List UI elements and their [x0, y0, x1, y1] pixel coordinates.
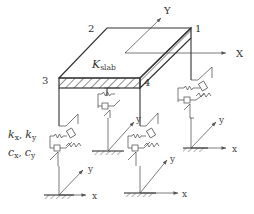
corner-label-4: 4: [144, 77, 150, 88]
isolator-1: [178, 67, 212, 148]
local-y-label: y: [87, 164, 94, 174]
spring-icon: [144, 143, 159, 147]
local-y-axis: [59, 170, 83, 195]
local-y-axis: [140, 160, 167, 193]
isolator-4: [128, 113, 159, 193]
local-y-label: y: [169, 154, 176, 164]
spring-icon: [128, 134, 146, 138]
column-1: x y: [178, 38, 237, 154]
damper-icon: [132, 145, 138, 151]
corner-label-1: 1: [195, 23, 201, 34]
spring-icon: [66, 143, 81, 147]
local-y-axis: [191, 122, 216, 148]
column-4: x y: [124, 88, 187, 199]
damper-icon: [184, 97, 190, 103]
isolator-3: [50, 114, 81, 195]
corner-label-2: 2: [88, 23, 94, 34]
damper-icon: [102, 103, 108, 109]
local-y-label: y: [218, 115, 225, 125]
damper-icon: [54, 145, 60, 151]
corner-label-3: 3: [42, 75, 48, 86]
ground-support: [124, 193, 154, 197]
slab-front-face: [59, 78, 140, 88]
structure-diagram: X Y 1 2 3 4 Kslab x y: [0, 0, 254, 214]
local-x-label: x: [92, 191, 97, 201]
ground-support: [44, 195, 72, 199]
local-x-label: x: [232, 144, 237, 154]
stiffness-label: kx, ky: [8, 128, 37, 142]
local-x-label: x: [182, 189, 187, 199]
global-y-label: Y: [163, 5, 171, 16]
slab: [59, 28, 191, 88]
spring-icon: [196, 93, 211, 97]
local-y-label: y: [135, 114, 142, 124]
ground-support: [92, 151, 122, 155]
spring-icon: [50, 134, 67, 138]
column-3: x y kx, ky cx, cy: [8, 88, 97, 201]
global-x-label: X: [236, 48, 244, 59]
ground-support: [183, 148, 205, 152]
isolator-2: [98, 88, 120, 150]
spring-icon: [178, 86, 200, 90]
damping-label: cx, cy: [8, 146, 36, 160]
local-y-axis: [108, 122, 134, 151]
